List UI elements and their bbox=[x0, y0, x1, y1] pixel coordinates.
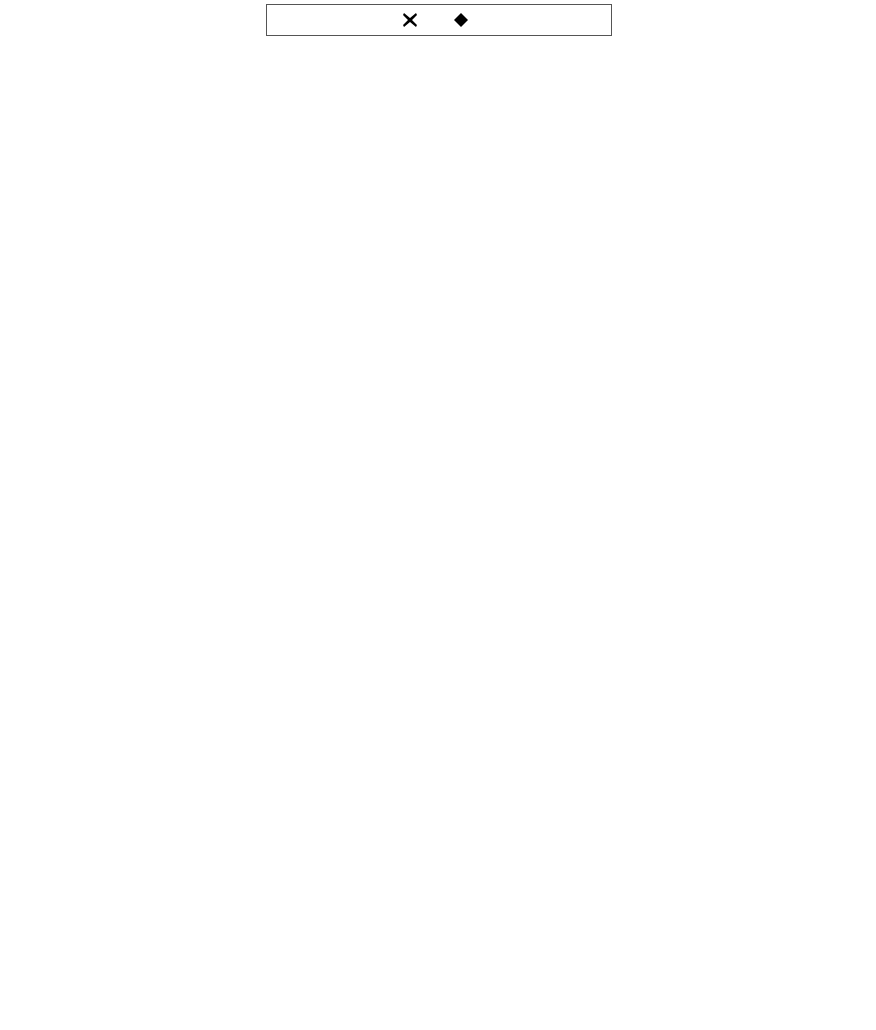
panel-world bbox=[0, 42, 438, 372]
panel-usa bbox=[438, 42, 876, 372]
legend-item-freight bbox=[401, 11, 427, 29]
legend-item-passenger bbox=[453, 12, 477, 28]
panel-japan bbox=[0, 702, 438, 1030]
panel-grid bbox=[0, 42, 876, 1030]
diamond-marker-icon bbox=[453, 12, 469, 28]
panel-eu28 bbox=[0, 377, 438, 707]
panel-india bbox=[438, 702, 876, 1030]
panel-china bbox=[438, 377, 876, 707]
x-star-marker-icon bbox=[401, 11, 419, 29]
chart-legend bbox=[266, 4, 612, 36]
